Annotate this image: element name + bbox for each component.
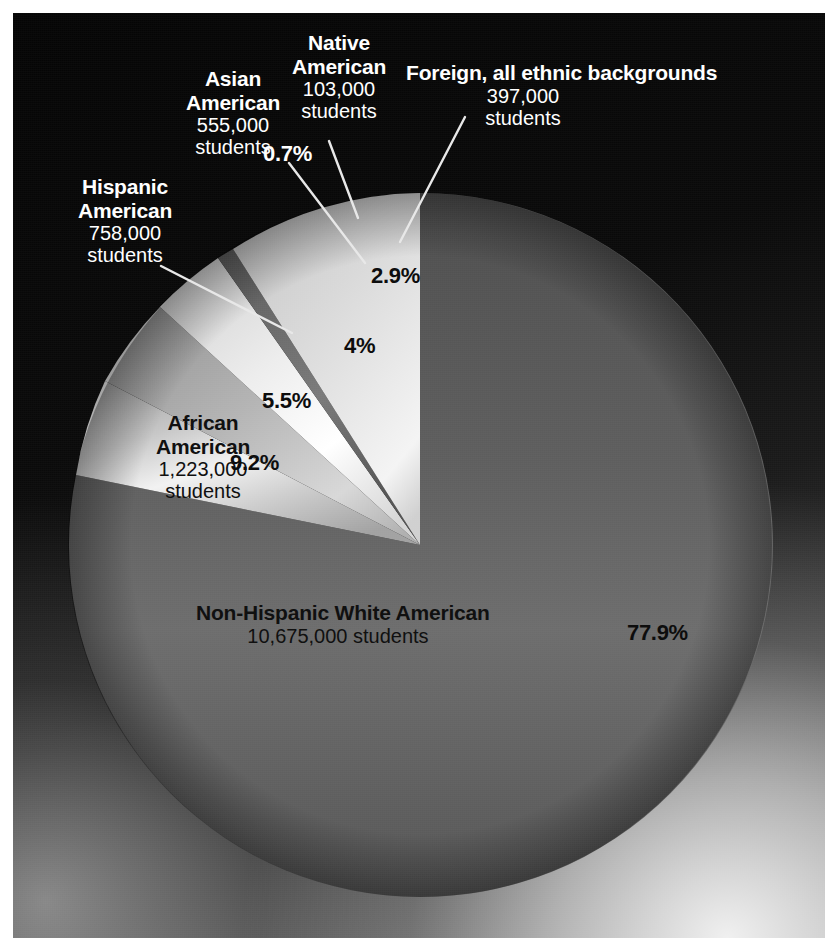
label-hispanic-american: Hispanic American 758,000 students	[45, 175, 205, 267]
label-foreign: Foreign, all ethnic backgrounds 397,000 …	[406, 61, 717, 129]
label-african-american-name-line1: African	[123, 411, 283, 435]
percent-foreign: 2.9%	[371, 263, 420, 289]
label-native-american-name-line2: American	[266, 55, 412, 79]
label-native-american-count: 103,000	[266, 78, 412, 100]
percent-native-american: 0.7%	[263, 141, 312, 167]
percent-hispanic-american: 5.5%	[262, 388, 311, 414]
label-native-american-unit: students	[266, 100, 412, 122]
label-african-american-unit: students	[123, 480, 283, 502]
label-foreign-unit: students	[440, 107, 606, 129]
chart-page: Hispanic American 758,000 students Asian…	[0, 0, 839, 952]
label-non-hispanic-white-american-count: 10,675,000 students	[196, 625, 480, 647]
label-non-hispanic-white-american-name: Non-Hispanic White American	[196, 601, 490, 625]
label-native-american-name-line1: Native	[266, 31, 412, 55]
label-hispanic-american-count: 758,000	[45, 222, 205, 244]
label-native-american: Native American 103,000 students	[266, 31, 412, 123]
label-non-hispanic-white-american: Non-Hispanic White American 10,675,000 s…	[196, 601, 490, 647]
label-hispanic-american-unit: students	[45, 244, 205, 266]
label-foreign-name: Foreign, all ethnic backgrounds	[406, 61, 717, 85]
label-foreign-count: 397,000	[440, 85, 606, 107]
percent-non-hispanic-white: 77.9%	[627, 620, 688, 646]
label-hispanic-american-name-line1: Hispanic	[45, 175, 205, 199]
label-hispanic-american-name-line2: American	[45, 199, 205, 223]
percent-asian-american: 4%	[344, 333, 375, 359]
percent-african-american: 9.2%	[230, 450, 279, 476]
chart-artboard: Hispanic American 758,000 students Asian…	[13, 13, 825, 938]
pie-rim-shadow	[68, 193, 772, 897]
